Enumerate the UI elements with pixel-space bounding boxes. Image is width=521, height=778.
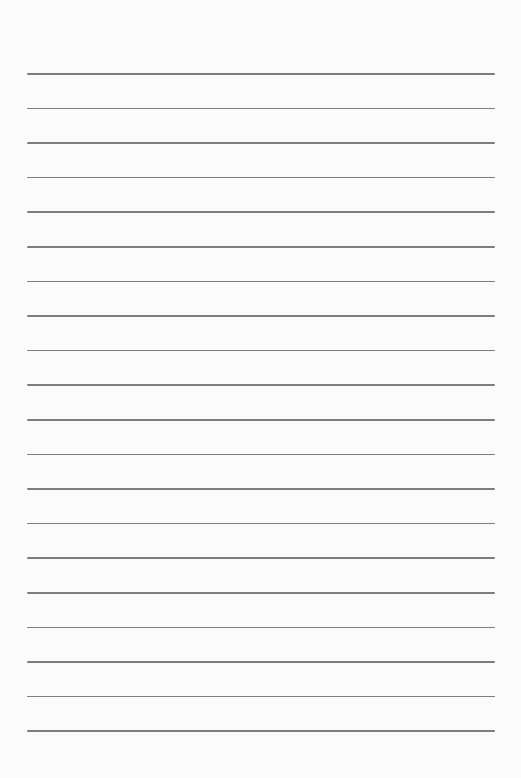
ruled-line (27, 523, 495, 525)
ruled-line (27, 350, 495, 352)
ruled-line (27, 142, 495, 144)
ruled-line (27, 696, 495, 698)
ruled-line (27, 627, 495, 629)
ruled-line (27, 661, 495, 663)
ruled-line (27, 246, 495, 248)
lined-paper-page (0, 0, 521, 778)
ruled-line (27, 315, 495, 317)
ruled-line (27, 177, 495, 179)
ruled-line (27, 211, 495, 213)
ruled-line (27, 108, 495, 110)
ruled-line (27, 281, 495, 283)
ruled-line (27, 419, 495, 421)
ruled-line (27, 73, 495, 75)
ruled-line (27, 592, 495, 594)
ruled-line (27, 384, 495, 386)
ruled-line (27, 557, 495, 559)
ruled-line (27, 730, 495, 732)
ruled-line (27, 454, 495, 456)
ruled-line (27, 488, 495, 490)
